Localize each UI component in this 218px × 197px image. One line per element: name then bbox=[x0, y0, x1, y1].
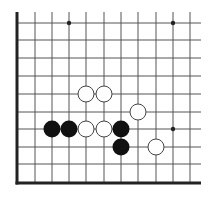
white-stone bbox=[96, 86, 112, 102]
white-stone bbox=[96, 121, 112, 137]
white-stone bbox=[78, 121, 94, 137]
black-stone bbox=[113, 121, 130, 138]
black-stone bbox=[44, 121, 61, 138]
star-point-icon bbox=[171, 127, 175, 131]
star-point-icon bbox=[67, 21, 71, 25]
star-point-icon bbox=[171, 21, 175, 25]
black-stone bbox=[113, 139, 130, 156]
go-board-diagram bbox=[0, 0, 218, 197]
black-stone bbox=[61, 121, 78, 138]
white-stone bbox=[130, 104, 146, 120]
white-stone bbox=[78, 86, 94, 102]
white-stone bbox=[148, 139, 164, 155]
